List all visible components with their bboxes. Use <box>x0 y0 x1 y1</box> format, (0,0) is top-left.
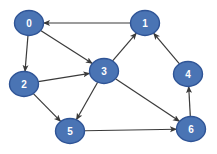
graph-diagram: 0123456 <box>0 0 217 154</box>
graph-node-6: 6 <box>177 117 206 142</box>
graph-edge-5-to-6 <box>84 129 176 131</box>
graph-node-circle-5 <box>56 119 85 144</box>
graph-node-circle-4 <box>174 62 203 87</box>
graph-edge-6-to-4 <box>189 86 191 116</box>
graph-edge-4-to-1 <box>154 33 180 64</box>
graph-edge-0-to-3 <box>41 30 93 63</box>
graph-node-circle-2 <box>10 72 39 97</box>
graph-edge-3-to-5 <box>76 82 97 120</box>
graph-node-4: 4 <box>174 62 203 87</box>
graph-node-circle-1 <box>131 11 160 36</box>
graph-node-circle-0 <box>15 11 44 36</box>
graph-node-0: 0 <box>15 11 44 36</box>
graph-node-3: 3 <box>90 59 119 84</box>
graph-edge-3-to-6 <box>115 79 179 122</box>
graph-node-2: 2 <box>10 72 39 97</box>
graph-node-1: 1 <box>131 11 160 36</box>
graph-node-circle-3 <box>90 59 119 84</box>
graph-node-circle-6 <box>177 117 206 142</box>
graph-edge-2-to-3 <box>38 73 90 81</box>
graph-node-5: 5 <box>56 119 85 144</box>
graph-edge-3-to-1 <box>113 33 137 61</box>
graph-edge-2-to-5 <box>33 94 60 122</box>
graph-canvas: 0123456 <box>0 0 217 154</box>
graph-edge-0-to-2 <box>25 35 28 71</box>
